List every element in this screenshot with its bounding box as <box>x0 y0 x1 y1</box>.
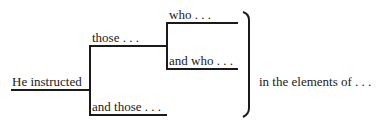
right-bracket-icon <box>0 0 387 124</box>
continuation-text: in the elements of . . . <box>259 75 371 89</box>
